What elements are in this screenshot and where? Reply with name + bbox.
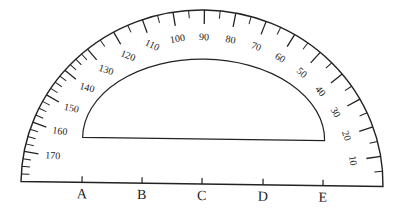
degree-label-20: 20: [340, 129, 354, 142]
tick-mark: [366, 156, 380, 159]
point-label-B: B: [137, 187, 147, 202]
tick-mark: [374, 171, 382, 172]
point-label-D: D: [258, 189, 268, 204]
tick-mark: [173, 12, 176, 26]
tick-mark: [100, 40, 105, 46]
degree-label-130: 130: [97, 62, 115, 77]
tick-mark: [347, 99, 360, 106]
degree-label-80: 80: [225, 33, 237, 46]
tick-mark: [303, 43, 308, 49]
degree-label-120: 120: [119, 47, 137, 63]
tick-mark: [360, 113, 367, 116]
tick-mark: [81, 54, 87, 60]
tick-mark: [60, 76, 67, 81]
tick-mark: [287, 34, 294, 46]
tick-mark: [46, 95, 59, 102]
tick-mark: [261, 21, 266, 34]
tick-mark: [51, 88, 58, 92]
tick-mark: [65, 70, 76, 79]
degree-label-90: 90: [199, 31, 209, 42]
tick-mark: [233, 13, 236, 27]
tick-mark: [370, 141, 378, 143]
tick-mark: [23, 159, 31, 160]
tick-mark: [33, 122, 47, 127]
tick-mark: [24, 151, 38, 154]
tick-mark: [39, 108, 46, 111]
tick-mark: [55, 82, 62, 87]
tick-mark: [28, 137, 36, 139]
degree-label-100: 100: [169, 32, 186, 45]
tick-mark: [311, 52, 320, 63]
tick-mark: [331, 74, 342, 83]
degree-label-160: 160: [52, 124, 68, 137]
baseline-points: ABCDE: [77, 176, 328, 204]
degree-label-30: 30: [328, 105, 342, 119]
tick-mark: [249, 17, 251, 25]
tick-mark: [43, 101, 50, 105]
tick-mark: [277, 27, 281, 34]
degree-label-110: 110: [143, 37, 161, 53]
tick-mark: [219, 11, 220, 19]
tick-mark: [142, 20, 147, 33]
degree-label-60: 60: [273, 50, 287, 65]
point-label-E: E: [318, 190, 327, 205]
degree-label-50: 50: [295, 65, 310, 80]
tick-mark: [326, 63, 332, 69]
tick-mark: [36, 115, 44, 118]
degree-label-150: 150: [63, 101, 80, 115]
degree-label-140: 140: [79, 80, 96, 94]
tick-mark: [345, 86, 352, 91]
tick-mark: [22, 166, 30, 167]
tick-mark: [189, 10, 190, 18]
tick-mark: [70, 65, 76, 70]
tick-mark: [113, 32, 120, 44]
protractor-inner-cutout: [83, 57, 326, 140]
protractor-diagram: 1020304050607080901001101201301401501601…: [0, 0, 399, 209]
degree-labels: 1020304050607080901001101201301401501601…: [45, 29, 362, 167]
tick-mark: [157, 15, 159, 23]
tick-mark: [128, 25, 132, 32]
degree-label-10: 10: [347, 155, 359, 167]
degree-label-70: 70: [250, 39, 263, 53]
tick-mark: [26, 144, 34, 146]
point-label-A: A: [77, 186, 88, 201]
tick-mark: [30, 129, 38, 131]
degree-label-170: 170: [45, 149, 61, 161]
tick-mark: [87, 49, 96, 60]
point-label-C: C: [197, 188, 207, 203]
degree-label-40: 40: [313, 84, 328, 99]
tick-mark: [359, 127, 373, 132]
tick-mark: [76, 59, 82, 65]
